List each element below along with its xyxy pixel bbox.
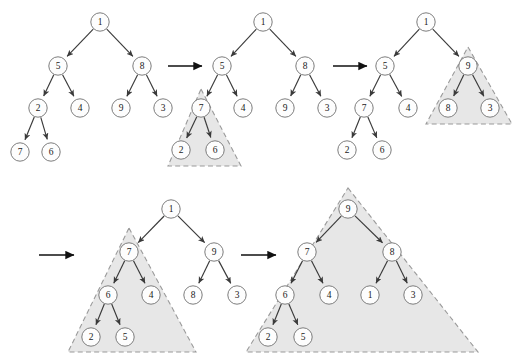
node-label: 3 <box>488 103 493 113</box>
node-label: 1 <box>169 204 174 214</box>
tree-node[interactable]: 7 <box>298 243 316 261</box>
tree-node[interactable]: 3 <box>481 99 499 117</box>
node-label: 1 <box>424 17 429 27</box>
tree-node[interactable]: 2 <box>259 328 277 346</box>
tree-node[interactable]: 7 <box>11 143 29 161</box>
node-label: 9 <box>466 61 471 71</box>
tree-node[interactable]: 6 <box>206 141 224 159</box>
tree-node[interactable]: 4 <box>234 99 252 117</box>
tree-node[interactable]: 6 <box>99 286 117 304</box>
tree-node[interactable]: 1 <box>254 13 272 31</box>
tree-node[interactable]: 4 <box>142 286 160 304</box>
tree-node[interactable]: 7 <box>192 99 210 117</box>
tree-edge <box>310 75 321 97</box>
tree-node[interactable]: 6 <box>42 143 60 161</box>
node-label: 1 <box>98 17 103 27</box>
tree-edge <box>219 261 231 284</box>
tree-edge <box>433 29 459 56</box>
tree-edge <box>368 117 377 138</box>
node-label: 7 <box>199 103 204 113</box>
node-label: 6 <box>380 145 385 155</box>
tree-edge <box>394 29 419 56</box>
node-label: 4 <box>327 290 332 300</box>
tree-edge <box>25 117 34 140</box>
node-label: 3 <box>161 103 166 113</box>
node-label: 6 <box>106 290 111 300</box>
tree-edge <box>178 216 205 243</box>
tree-edge <box>146 75 157 96</box>
tree-node[interactable]: 8 <box>296 57 314 75</box>
node-label: 6 <box>283 290 288 300</box>
node-label: 7 <box>18 147 23 157</box>
node-label: 4 <box>406 103 411 113</box>
tree-node[interactable]: 9 <box>112 99 130 117</box>
node-label: 4 <box>78 103 83 113</box>
tree-node[interactable]: 9 <box>276 99 294 117</box>
tree-node[interactable]: 1 <box>162 200 180 218</box>
tree-edge <box>41 117 47 139</box>
tree-node[interactable]: 2 <box>82 328 100 346</box>
tree-node[interactable]: 4 <box>320 286 338 304</box>
tree-node[interactable]: 9 <box>205 243 223 261</box>
node-label: 7 <box>127 247 132 257</box>
node-label: 5 <box>301 332 306 342</box>
node-label: 8 <box>140 61 145 71</box>
node-label: 1 <box>261 17 266 27</box>
node-label: 9 <box>346 204 351 214</box>
tree-node[interactable]: 8 <box>383 243 401 261</box>
tree-node[interactable]: 1 <box>417 13 435 31</box>
figure-canvas: 1582493761587493261597483261796483259786… <box>0 0 521 359</box>
highlight-triangle-tree-5 <box>246 188 478 352</box>
node-label: 2 <box>89 332 94 342</box>
node-label: 8 <box>303 61 308 71</box>
tree-node[interactable]: 9 <box>459 57 477 75</box>
heapify-figure: 1582493761587493261597483261796483259786… <box>0 0 521 359</box>
tree-node[interactable]: 3 <box>228 286 246 304</box>
node-label: 3 <box>325 103 330 113</box>
node-label: 3 <box>411 290 416 300</box>
node-label: 9 <box>212 247 217 257</box>
tree-node[interactable]: 1 <box>361 286 379 304</box>
node-label: 8 <box>191 290 196 300</box>
tree-edge <box>291 75 301 96</box>
tree-node[interactable]: 8 <box>439 99 457 117</box>
tree-node[interactable]: 6 <box>373 141 391 159</box>
node-label: 3 <box>235 290 240 300</box>
tree-node[interactable]: 3 <box>404 286 422 304</box>
tree-node[interactable]: 2 <box>338 141 356 159</box>
tree-node[interactable]: 4 <box>71 99 89 117</box>
tree-edge <box>390 75 402 97</box>
tree-edge <box>231 29 256 56</box>
node-label: 5 <box>220 61 225 71</box>
tree-node[interactable]: 6 <box>276 286 294 304</box>
tree-node[interactable]: 1 <box>91 13 109 31</box>
tree-node[interactable]: 5 <box>213 57 231 75</box>
node-label: 2 <box>266 332 271 342</box>
node-label: 8 <box>446 103 451 113</box>
tree-edge <box>63 75 74 97</box>
tree-node[interactable]: 8 <box>133 57 151 75</box>
node-label: 2 <box>345 145 350 155</box>
tree-node[interactable]: 4 <box>399 99 417 117</box>
tree-edge <box>138 216 164 243</box>
tree-node[interactable]: 9 <box>339 200 357 218</box>
node-label: 8 <box>390 247 395 257</box>
node-label: 6 <box>49 147 54 157</box>
tree-node[interactable]: 5 <box>294 328 312 346</box>
node-label: 1 <box>368 290 373 300</box>
tree-node[interactable]: 3 <box>318 99 336 117</box>
tree-node[interactable]: 2 <box>29 99 47 117</box>
tree-edge <box>44 75 54 96</box>
tree-node[interactable]: 8 <box>184 286 202 304</box>
node-label: 9 <box>119 103 124 113</box>
tree-edge <box>107 29 133 56</box>
tree-node[interactable]: 7 <box>355 99 373 117</box>
tree-node[interactable]: 5 <box>49 57 67 75</box>
tree-edge <box>207 75 218 96</box>
tree-node[interactable]: 5 <box>376 57 394 75</box>
tree-node[interactable]: 2 <box>172 141 190 159</box>
tree-node[interactable]: 5 <box>116 328 134 346</box>
node-label: 9 <box>283 103 288 113</box>
tree-node[interactable]: 3 <box>154 99 172 117</box>
tree-node[interactable]: 7 <box>120 243 138 261</box>
